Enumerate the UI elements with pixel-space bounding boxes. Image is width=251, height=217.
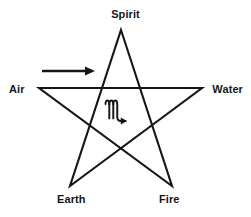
pentagram-canvas bbox=[0, 0, 251, 217]
vertex-label-water: Water bbox=[212, 84, 243, 95]
scorpio-tail-arrowhead bbox=[121, 118, 127, 125]
vertex-label-fire: Fire bbox=[159, 194, 180, 205]
pentagram-diagram: Spirit Water Fire Earth Air bbox=[0, 0, 251, 217]
direction-arrow bbox=[42, 67, 95, 76]
direction-arrow-head bbox=[85, 67, 95, 76]
scorpio-icon bbox=[106, 100, 128, 124]
vertex-label-earth: Earth bbox=[57, 194, 86, 205]
scorpio-stroke-3 bbox=[113, 100, 125, 121]
pentagram-star-path bbox=[39, 30, 202, 186]
vertex-label-air: Air bbox=[9, 84, 25, 95]
vertex-label-spirit: Spirit bbox=[0, 9, 251, 20]
